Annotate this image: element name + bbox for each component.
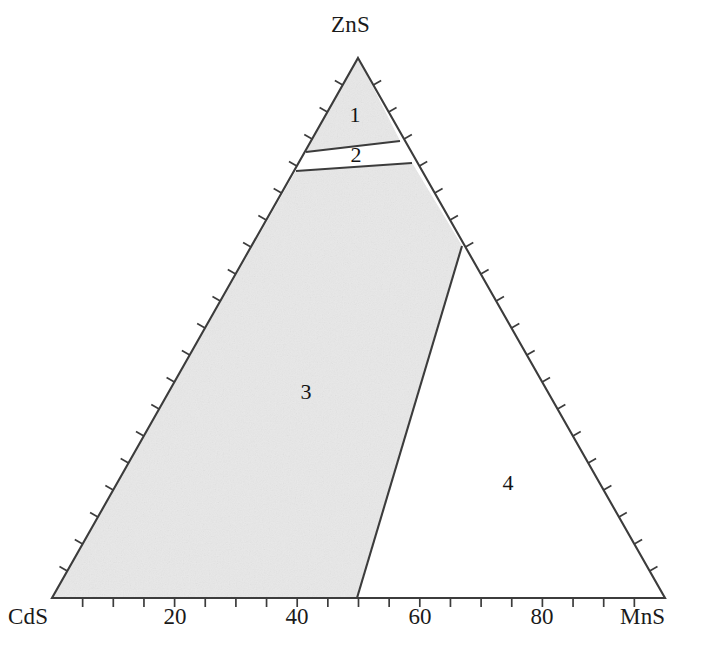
tick-mark-left: [182, 351, 190, 355]
tick-mark-left: [335, 81, 343, 85]
tick-mark-left: [212, 297, 220, 301]
tick-mark-right: [465, 243, 473, 247]
tick-mark-right: [634, 540, 642, 544]
axis-tick-label-40: 40: [286, 604, 309, 630]
tick-mark-right: [573, 432, 581, 436]
tick-mark-left: [105, 486, 113, 490]
tick-mark-right: [389, 108, 397, 112]
vertex-label-zns: ZnS: [331, 12, 370, 38]
tick-mark-right: [619, 513, 627, 517]
tick-mark-left: [304, 135, 312, 139]
axis-tick-label-20: 20: [164, 604, 187, 630]
tick-mark-left: [90, 513, 98, 517]
region-label-2: 2: [351, 142, 362, 168]
region-label-1: 1: [350, 102, 361, 128]
tick-mark-right: [542, 378, 550, 382]
tick-mark-left: [228, 270, 236, 274]
tick-mark-right: [373, 81, 381, 85]
tick-mark-left: [258, 216, 266, 220]
tick-mark-left: [59, 567, 67, 571]
tick-mark-left: [197, 324, 205, 328]
tick-mark-left: [167, 378, 175, 382]
tick-mark-right: [588, 459, 596, 463]
tick-mark-right: [496, 297, 504, 301]
tick-mark-left: [75, 540, 83, 544]
tick-mark-left: [243, 243, 251, 247]
tick-mark-right: [435, 189, 443, 193]
region-3-grain: [52, 163, 462, 598]
shaded-regions: [52, 58, 462, 598]
tick-mark-left: [121, 459, 129, 463]
tick-mark-left: [274, 189, 282, 193]
tick-mark-right: [419, 162, 427, 166]
region-label-4: 4: [503, 470, 514, 496]
tick-mark-left: [151, 405, 159, 409]
tick-mark-right: [450, 216, 458, 220]
tick-mark-right: [650, 567, 658, 571]
vertex-label-mns: MnS: [620, 604, 665, 630]
ternary-phase-diagram-figure: ZnS CdS MnS 20 40 60 80 1 2 3 4: [0, 0, 716, 655]
axis-tick-label-60: 60: [409, 604, 432, 630]
tick-mark-right: [481, 270, 489, 274]
tick-mark-right: [527, 351, 535, 355]
region-label-3: 3: [301, 379, 312, 405]
tick-mark-right: [512, 324, 520, 328]
tick-mark-left: [289, 162, 297, 166]
tick-mark-left: [136, 432, 144, 436]
tick-mark-left: [320, 108, 328, 112]
tick-mark-right: [558, 405, 566, 409]
axis-tick-label-80: 80: [531, 604, 554, 630]
tick-mark-right: [404, 135, 412, 139]
ternary-diagram-canvas: [0, 0, 716, 655]
vertex-label-cds: CdS: [8, 604, 48, 630]
tick-mark-right: [604, 486, 612, 490]
